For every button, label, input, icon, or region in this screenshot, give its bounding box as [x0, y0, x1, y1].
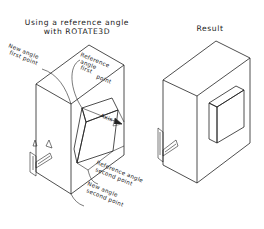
left-title-line2: with ROTATE3D [22, 27, 132, 36]
ucs-right-y-plate [158, 128, 163, 162]
right-box-top-face [163, 41, 250, 96]
left-title-line1: Using a reference angle [22, 18, 132, 27]
leader-new-angle-first [42, 69, 71, 104]
right-box-bottom-left-edge [163, 165, 197, 183]
result-slab [209, 86, 244, 143]
right-title: Result [180, 24, 240, 33]
right-box-bottom-right-edge [197, 143, 250, 183]
left-title: Using a reference angle with ROTATE3D [22, 18, 132, 36]
right-box [163, 41, 250, 183]
slab-bottom-edge2 [77, 163, 88, 170]
diagram-canvas: Using a reference angle with ROTATE3D Re… [0, 0, 264, 229]
ucs-icon-right [158, 128, 178, 162]
ucs-x-plate [36, 153, 52, 168]
slab-side-face [74, 108, 86, 163]
slab-edge [118, 110, 124, 122]
ucs-arrow-tip [46, 140, 52, 148]
leader-new-angle-second [71, 194, 84, 206]
result-slab-side [209, 103, 217, 143]
left-box-bottom-left-edge [36, 172, 71, 194]
label-axis: Axis [100, 112, 114, 122]
result-slab-front [217, 90, 244, 143]
slab-bottom-edge [113, 146, 124, 151]
ucs-icon-left [30, 140, 52, 176]
ucs-arrow-tip-y [33, 140, 37, 146]
result-slab-top [209, 86, 244, 107]
